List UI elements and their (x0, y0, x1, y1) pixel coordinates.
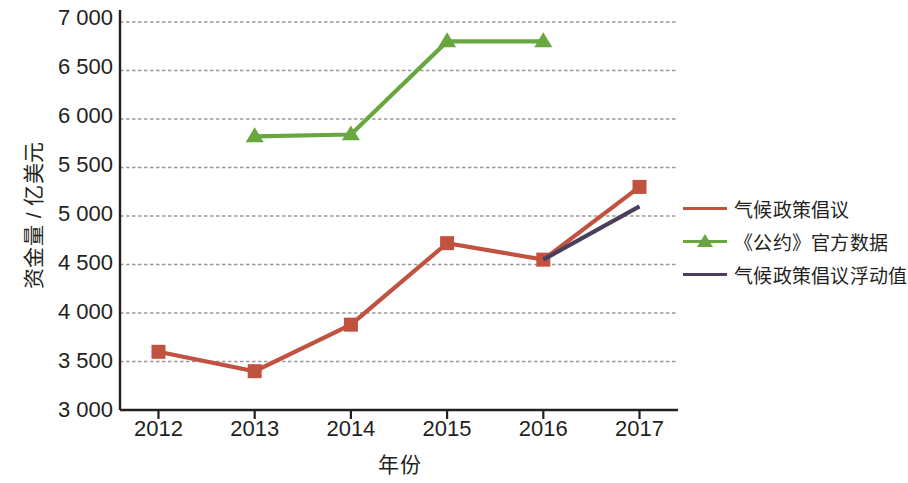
x-tick-label: 2017 (595, 416, 685, 442)
square-marker-icon (151, 345, 165, 359)
x-tick-label: 2012 (113, 416, 203, 442)
x-tick-label: 2014 (306, 416, 396, 442)
legend-label: 气候政策倡议浮动值 (734, 261, 908, 288)
legend-swatch-line-icon (683, 199, 727, 219)
square-marker-icon (633, 180, 647, 194)
x-tick-label: 2013 (210, 416, 300, 442)
legend-item-0[interactable]: 气候政策倡议 (683, 192, 902, 225)
x-tick-label: 2015 (402, 416, 492, 442)
legend-swatch-line-triangle-icon (683, 232, 727, 252)
legend-item-1[interactable]: 《公约》官方数据 (683, 225, 902, 258)
square-marker-icon (344, 318, 358, 332)
x-axis-title: 年份 (120, 448, 680, 478)
legend-item-2[interactable]: 气候政策倡议浮动值 (683, 258, 902, 291)
series-2 (543, 206, 639, 259)
legend-label: 气候政策倡议 (734, 195, 850, 222)
gridlines (120, 22, 678, 362)
triangle-marker-icon (697, 234, 713, 247)
legend-label: 《公约》官方数据 (734, 228, 888, 255)
square-marker-icon (440, 236, 454, 250)
legend-swatch-line-icon (683, 265, 727, 285)
data-series-layer (151, 32, 646, 378)
square-marker-icon (248, 364, 262, 378)
legend: 气候政策倡议 《公约》官方数据 气候政策倡议浮动值 (683, 192, 902, 291)
x-tick-label: 2016 (498, 416, 588, 442)
series-1 (246, 32, 553, 142)
series-0 (151, 180, 646, 378)
